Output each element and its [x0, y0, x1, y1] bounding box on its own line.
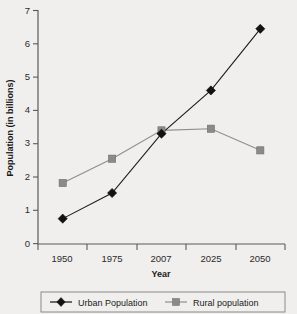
y-tick-label: 4 — [25, 104, 30, 115]
chart-container: Population (in billions) 7 6 5 4 3 2 1 0 — [0, 0, 297, 314]
series-line-urban — [63, 29, 261, 219]
y-axis-title: Population (in billions) — [5, 80, 15, 177]
y-tick-label: 2 — [25, 171, 30, 182]
x-axis-title: Year — [151, 269, 171, 279]
data-point-marker — [257, 147, 264, 154]
data-point-marker — [58, 214, 67, 223]
x-tick-label: 2007 — [150, 253, 171, 264]
chart-legend: Urban Population Rural population — [41, 292, 285, 312]
x-axis-ticks: 1950 1975 2007 2025 2050 — [51, 253, 270, 264]
y-tick-label: 6 — [25, 38, 30, 49]
y-tick-label: 0 — [25, 238, 30, 249]
x-tick-label: 2025 — [200, 253, 221, 264]
x-tick-marks — [38, 244, 285, 250]
legend-label-urban: Urban Population — [78, 298, 148, 308]
y-tick-label: 3 — [25, 137, 30, 148]
y-tick-marks — [33, 11, 38, 244]
y-tick-label: 7 — [25, 5, 30, 16]
data-point-marker — [59, 179, 66, 186]
square-icon — [173, 299, 180, 306]
population-line-chart: Population (in billions) 7 6 5 4 3 2 1 0 — [0, 0, 297, 314]
x-tick-label: 1950 — [51, 253, 72, 264]
x-tick-label: 1975 — [101, 253, 122, 264]
y-tick-label: 1 — [25, 204, 30, 215]
data-point-marker — [109, 155, 116, 162]
data-point-marker — [207, 125, 214, 132]
legend-label-rural: Rural population — [193, 298, 259, 308]
y-axis-ticks: 7 6 5 4 3 2 1 0 — [25, 5, 30, 249]
y-tick-label: 5 — [25, 71, 30, 82]
series-markers-urban — [58, 24, 265, 223]
x-tick-label: 2050 — [249, 253, 270, 264]
